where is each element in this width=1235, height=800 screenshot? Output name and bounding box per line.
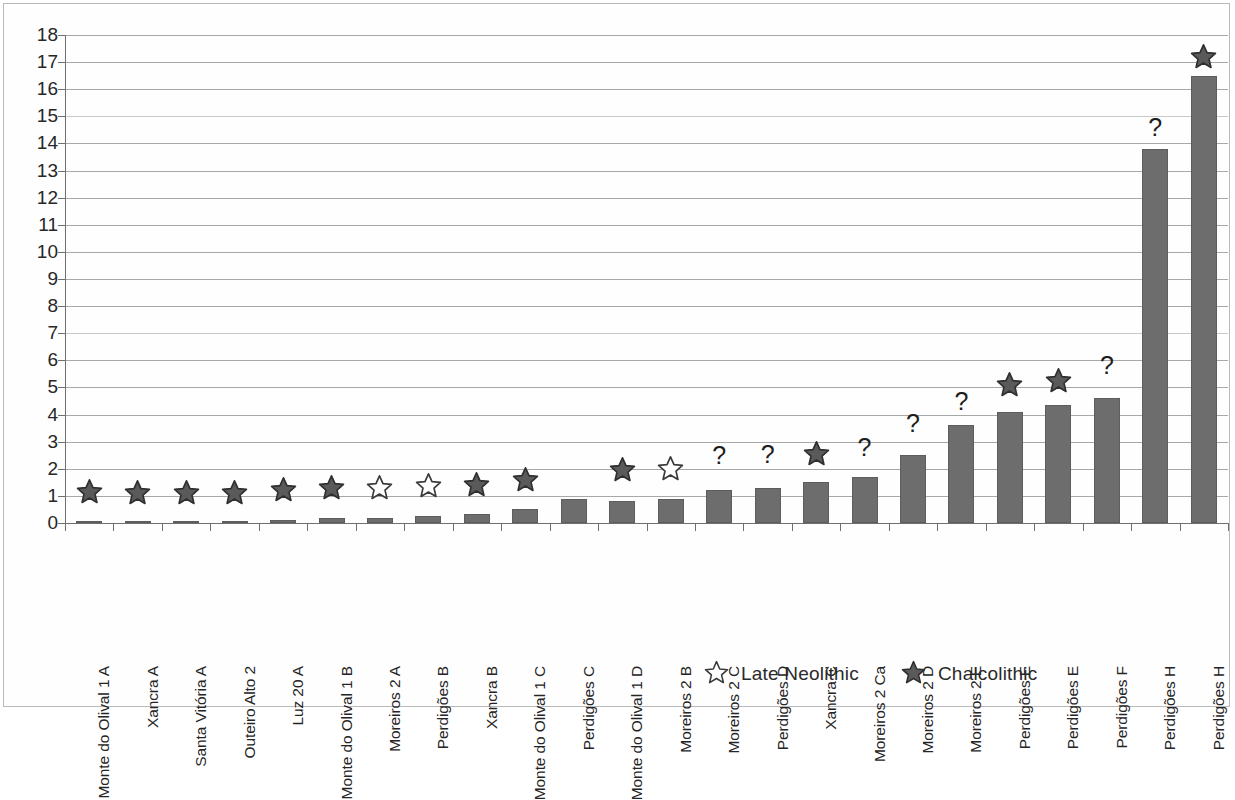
bar-slot — [113, 35, 161, 523]
x-tick-mark — [986, 523, 987, 531]
x-tick-label: Perdigões H — [1210, 666, 1228, 750]
bar[interactable] — [948, 425, 974, 523]
chalcolithic-star-icon — [799, 440, 833, 467]
x-tick-mark — [889, 523, 890, 531]
bar[interactable] — [803, 482, 829, 523]
y-tick-label-4: 4 — [12, 405, 58, 424]
x-tick-mark — [550, 523, 551, 531]
x-tick-label: Monte do Olival 1 A — [95, 666, 113, 799]
chart-legend: Late NeolithicChalcolithic — [704, 659, 1038, 689]
y-tick-label-17: 17 — [12, 52, 58, 71]
bar[interactable] — [755, 488, 781, 523]
bar[interactable] — [1094, 398, 1120, 523]
y-tick-label-5: 5 — [12, 377, 58, 396]
bar-slot — [986, 35, 1034, 523]
bar[interactable] — [900, 455, 926, 523]
x-tick-mark — [501, 523, 502, 531]
x-tick-label: Perdigões F — [1113, 666, 1131, 748]
chalcolithic-star-icon — [901, 660, 926, 689]
y-tick-label-9: 9 — [12, 269, 58, 288]
x-tick-mark — [356, 523, 357, 531]
x-tick-mark — [695, 523, 696, 531]
y-tick-mark-13 — [58, 171, 65, 172]
y-tick-mark-0 — [58, 523, 65, 524]
bar[interactable] — [997, 412, 1023, 523]
bar-slot — [501, 35, 549, 523]
y-tick-mark-5 — [58, 387, 65, 388]
y-tick-mark-11 — [58, 225, 65, 226]
y-tick-label-10: 10 — [12, 242, 58, 261]
x-tick-mark — [162, 523, 163, 531]
bar-slot — [1180, 35, 1228, 523]
bar-slot — [598, 35, 646, 523]
x-tick-mark — [1228, 523, 1229, 531]
y-tick-label-6: 6 — [12, 350, 58, 369]
chalcolithic-star-icon — [993, 371, 1027, 398]
bar[interactable] — [1045, 405, 1071, 523]
x-tick-mark — [404, 523, 405, 531]
bar-slot — [356, 35, 404, 523]
bar-slot: ? — [1083, 35, 1131, 523]
late-neolithic-star-icon — [363, 474, 397, 501]
bar[interactable] — [852, 477, 878, 523]
x-tick-mark — [113, 523, 114, 531]
x-tick-mark — [840, 523, 841, 531]
bar[interactable] — [658, 499, 684, 523]
x-tick-mark — [743, 523, 744, 531]
x-tick-mark — [1180, 523, 1181, 531]
bar-slot — [210, 35, 258, 523]
y-tick-label-8: 8 — [12, 296, 58, 315]
bar[interactable] — [706, 490, 732, 523]
legend-item-chalcolithic[interactable]: Chalcolithic — [901, 660, 1038, 689]
bar-slot — [162, 35, 210, 523]
bar-slot — [259, 35, 307, 523]
bar[interactable] — [512, 509, 538, 523]
chalcolithic-star-icon — [1041, 367, 1075, 394]
x-tick-mark — [792, 523, 793, 531]
y-tick-label-15: 15 — [12, 106, 58, 125]
bar[interactable] — [415, 516, 441, 523]
chalcolithic-star-icon — [169, 479, 203, 506]
y-tick-mark-16 — [58, 89, 65, 90]
y-tick-label-13: 13 — [12, 161, 58, 180]
y-tick-mark-12 — [58, 198, 65, 199]
bar-slot: ? — [1131, 35, 1179, 523]
y-tick-mark-8 — [58, 306, 65, 307]
bar[interactable] — [1142, 149, 1168, 523]
chalcolithic-star-icon — [508, 466, 542, 493]
x-tick-label: Moreiros 2 B — [677, 666, 695, 753]
x-tick-mark — [937, 523, 938, 531]
y-tick-mark-17 — [58, 62, 65, 63]
chalcolithic-star-icon — [266, 476, 300, 503]
unknown-marker-icon: ? — [848, 435, 882, 460]
chalcolithic-star-icon — [605, 456, 639, 483]
x-tick-mark — [647, 523, 648, 531]
bar[interactable] — [561, 499, 587, 523]
bar[interactable] — [1191, 76, 1217, 523]
x-tick-mark — [259, 523, 260, 531]
bar-slot: ? — [840, 35, 888, 523]
x-tick-label: Perdigões H — [1161, 666, 1179, 750]
chalcolithic-star-icon — [72, 478, 106, 505]
bar-slot — [550, 35, 598, 523]
x-tick-label: Perdigões C — [580, 666, 598, 750]
unknown-marker-icon: ? — [751, 442, 785, 467]
chalcolithic-star-icon — [460, 471, 494, 498]
bar[interactable] — [464, 514, 490, 523]
y-tick-label-7: 7 — [12, 323, 58, 342]
y-tick-mark-4 — [58, 415, 65, 416]
bar-slot: ? — [889, 35, 937, 523]
y-tick-mark-18 — [58, 35, 65, 36]
x-tick-label: Luz 20 A — [289, 666, 307, 726]
unknown-marker-icon: ? — [944, 389, 978, 414]
x-tick-mark — [65, 523, 66, 531]
x-tick-label: Moreiros 2 A — [386, 666, 404, 752]
x-tick-mark — [1034, 523, 1035, 531]
bar-slot — [1034, 35, 1082, 523]
bar-slot — [404, 35, 452, 523]
late-neolithic-star-icon — [411, 472, 445, 499]
unknown-marker-icon: ? — [702, 443, 736, 468]
x-tick-label: Monte do Olival 1 B — [338, 666, 356, 799]
bar[interactable] — [609, 501, 635, 523]
legend-item-late-neolithic[interactable]: Late Neolithic — [704, 660, 859, 689]
